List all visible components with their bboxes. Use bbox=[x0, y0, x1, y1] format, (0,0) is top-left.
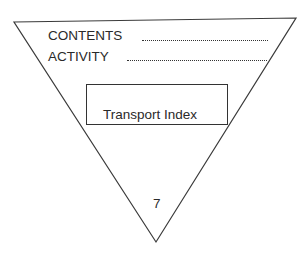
triangle-outline bbox=[0, 0, 298, 253]
contents-dotted-line bbox=[142, 40, 268, 41]
category-number: 7 bbox=[153, 197, 161, 211]
activity-label: ACTIVITY bbox=[48, 50, 109, 64]
activity-dotted-line bbox=[127, 60, 267, 61]
transport-index-box: Transport Index bbox=[86, 84, 228, 125]
transport-index-label: Transport Index bbox=[103, 107, 197, 122]
contents-label: CONTENTS bbox=[48, 29, 122, 43]
